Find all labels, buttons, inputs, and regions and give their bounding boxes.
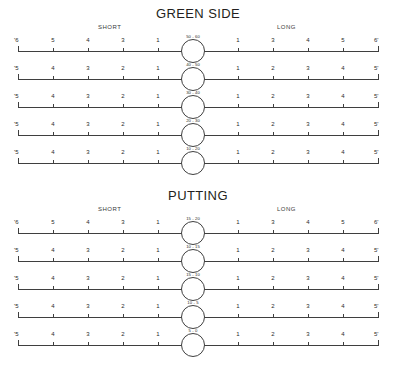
tick-mark [158,160,159,164]
tick-mark [273,104,274,108]
tick-mark [238,132,239,136]
axis-line-long [203,79,378,80]
tick-mark [53,314,54,318]
tick-mark [88,342,89,346]
tick-mark [238,314,239,318]
target-circle [181,123,205,147]
tick-value-short: 3 [86,121,89,127]
tick-value-long: 1 [236,93,239,99]
axis-line-short [18,163,193,164]
tick-value-long: 4 [306,219,309,225]
tick-value-short: 3 [121,37,124,43]
tick-value-short: 2 [121,149,124,155]
tick-value-short: 1 [156,93,159,99]
tick-value-long: 5 [341,219,344,225]
tick-mark [53,258,54,262]
tick-mark [238,48,239,52]
tick-value-long: 1 [236,149,239,155]
tick-value-long: 2 [271,275,274,281]
axis-endcap-right [378,102,379,108]
tick-value-short: 3 [86,149,89,155]
axis-line-long [203,345,378,346]
tick-value-short: 4 [51,65,54,71]
axis-endcap-left [18,74,19,80]
tick-value-long: 4 [341,149,344,155]
axis-endcap-left [18,46,19,52]
tick-value-long: 3 [306,65,309,71]
tick-value-long: 1 [236,331,239,337]
tick-mark [238,230,239,234]
axis-endcap-right [378,46,379,52]
practice-sheet: GREEN SIDE SHORT LONG '66'5431134550 - 6… [0,0,396,370]
tick-value-long: 3 [306,303,309,309]
rows-putting: '66'5431134515 - 20'55'4321123410 - 15'5… [0,216,396,356]
tick-mark [343,160,344,164]
axis-endcap-right [378,228,379,234]
tick-mark [123,230,124,234]
tick-mark [123,48,124,52]
tick-mark [273,160,274,164]
axis-endcap-left [18,312,19,318]
axis-endcap-right [378,256,379,262]
axis-endcap-left [18,228,19,234]
target-circle [181,39,205,63]
axis-end-value-left: '5 [14,121,18,127]
tick-value-long: 1 [236,303,239,309]
tick-value-short: 4 [51,331,54,337]
scale-row: '55'4321123410 - 15 [0,244,396,272]
scale-row: '55'432112345 - 0 [0,328,396,356]
tick-value-long: 4 [341,331,344,337]
tick-value-short: 1 [156,121,159,127]
axis-line-short [18,135,193,136]
tick-mark [53,104,54,108]
axis-line-long [203,51,378,52]
axis-line-short [18,107,193,108]
axis-end-value-right: 5' [374,275,378,281]
axis-end-value-left: '6 [14,219,18,225]
axis-line-short [18,79,193,80]
tick-value-short: 4 [51,121,54,127]
tick-value-long: 2 [271,65,274,71]
tick-value-short: 5 [51,37,54,43]
tick-value-short: 4 [51,247,54,253]
axis-line-short [18,261,193,262]
tick-value-short: 3 [86,275,89,281]
axis-end-value-left: '5 [14,65,18,71]
tick-mark [308,104,309,108]
axis-end-value-left: '6 [14,37,18,43]
target-circle [181,249,205,273]
tick-value-short: 2 [121,65,124,71]
tick-mark [88,76,89,80]
scale-row: '55'4321123415 - 10 [0,272,396,300]
tick-value-short: 2 [121,121,124,127]
tick-mark [123,258,124,262]
axis-end-value-right: 5' [374,303,378,309]
tick-mark [308,342,309,346]
tick-value-short: 4 [51,303,54,309]
axis-endcap-left [18,284,19,290]
axis-endcap-left [18,256,19,262]
tick-value-long: 5 [341,37,344,43]
tick-value-long: 2 [271,247,274,253]
tick-mark [53,342,54,346]
tick-value-short: 4 [51,275,54,281]
short-label-green-side: SHORT [98,24,121,30]
tick-value-short: 4 [51,149,54,155]
tick-value-long: 2 [271,303,274,309]
tick-mark [88,104,89,108]
axis-end-value-right: 6' [374,37,378,43]
tick-value-long: 3 [306,275,309,281]
tick-mark [308,76,309,80]
axis-end-value-left: '5 [14,331,18,337]
tick-mark [238,286,239,290]
tick-mark [273,314,274,318]
tick-value-short: 1 [156,247,159,253]
tick-value-long: 4 [341,65,344,71]
short-label-putting: SHORT [98,206,121,212]
tick-mark [53,230,54,234]
axis-end-value-right: 5' [374,331,378,337]
tick-value-long: 4 [341,275,344,281]
axis-line-long [203,163,378,164]
target-circle [181,333,205,357]
axis-line-short [18,289,193,290]
